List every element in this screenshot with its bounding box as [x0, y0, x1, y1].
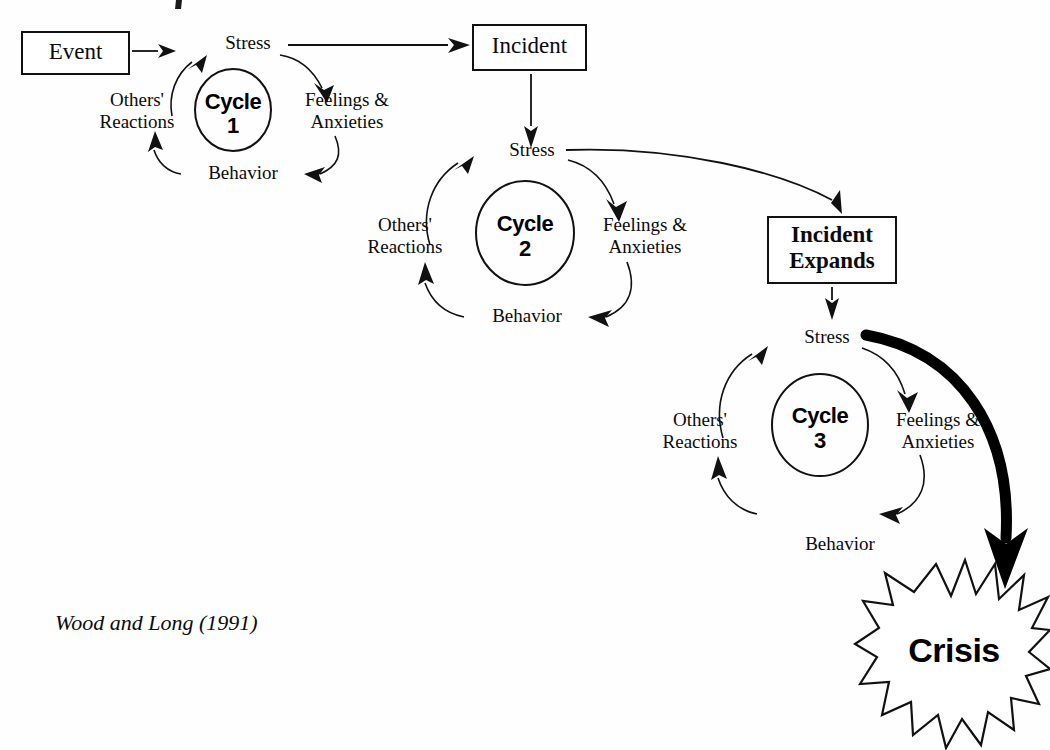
behavior1-to-others1-arc	[154, 150, 181, 174]
cycle-3-others-line1: Others'	[673, 409, 727, 430]
connector-stress2-to-feelings2	[568, 160, 627, 222]
stress2-to-expands-shaft	[566, 150, 832, 200]
stress2-to-feelings2-arc	[568, 160, 614, 204]
cycle-1-feelings-line2: Anxieties	[311, 111, 384, 132]
behavior2-to-others2-arc	[425, 283, 464, 317]
diagram-canvas: Event	[0, 0, 1050, 750]
feelings3-to-behavior3-head	[879, 507, 903, 524]
cycle-2-others-line2: Reactions	[368, 236, 443, 257]
connector-feelings1-to-behavior1	[304, 136, 339, 183]
stress1-to-feelings1-arc	[280, 55, 322, 88]
cycle-3-center-number: 3	[814, 428, 826, 453]
cycle-1-group: Event	[22, 32, 389, 183]
connector-stress3-to-crisis	[866, 335, 1028, 589]
cycle-2-center-number: 2	[519, 236, 531, 261]
stress3-to-feelings3-arc	[862, 348, 905, 394]
cropped-title-fragment	[175, 0, 182, 9]
connector-feelings2-to-behavior2	[588, 262, 631, 327]
connector-others2-to-stress2	[426, 156, 474, 245]
incident-box-label: Incident	[492, 33, 568, 58]
stress2-to-expands-head	[824, 190, 842, 214]
cycle-2-group: Cycle 2 Stress Feelings & Anxieties Beha…	[368, 139, 688, 327]
cycle-2-behavior-label: Behavior	[492, 305, 562, 326]
cycle-1-feelings-line1: Feelings &	[305, 89, 389, 110]
connector-behavior1-to-others1	[148, 131, 181, 174]
stress-cycle-diagram: Event	[0, 0, 1050, 750]
connector-incident-to-stress2	[524, 74, 538, 148]
crisis-outcome[interactable]: Crisis	[855, 560, 1050, 748]
cycle-2-feelings-line2: Anxieties	[609, 236, 682, 257]
stress1-to-incident-head	[448, 38, 470, 53]
cycle-3-stress-label: Stress	[804, 326, 849, 347]
cycle-3-feelings-line1: Feelings &	[896, 409, 980, 430]
others1-arrow-head	[188, 55, 207, 73]
cycle-1-center-number: 1	[227, 113, 239, 138]
connector-stress3-to-feelings3	[862, 348, 918, 413]
feelings3-to-behavior3-arc	[897, 455, 924, 514]
incident-expands-label-line1: Incident	[791, 222, 873, 247]
cycle-2-feelings-line1: Feelings &	[603, 214, 687, 235]
others1-arc	[171, 62, 192, 116]
cycle-1-center-label: Cycle	[205, 89, 262, 114]
cycle-3-center-label: Cycle	[792, 403, 849, 428]
cycle-2-others-line1: Others'	[378, 214, 432, 235]
feelings2-to-behavior2-arc	[606, 262, 631, 317]
incident-expands-label-line2: Expands	[789, 248, 875, 273]
behavior1-to-others1-head	[148, 131, 163, 152]
behavior2-to-others2-head	[418, 262, 434, 285]
expands-to-stress3-head	[825, 298, 839, 320]
incident-expands-box[interactable]: Incident Expands	[768, 217, 896, 283]
incident-box[interactable]: Incident	[473, 25, 586, 70]
event-box-label: Event	[49, 39, 103, 64]
connector-expands-to-stress3	[825, 287, 839, 320]
connector-behavior2-to-others2	[418, 262, 464, 317]
connector-behavior3-to-others3	[711, 456, 757, 514]
cycle-2-stress-label: Stress	[509, 139, 554, 160]
connector-feelings3-to-behavior3	[879, 455, 924, 524]
behavior3-to-others3-arc	[718, 478, 757, 514]
connector-stress2-to-incident-expands	[566, 150, 842, 214]
crisis-label: Crisis	[908, 631, 1000, 669]
behavior3-to-others3-head	[711, 456, 727, 480]
cycle-1-others-line2: Reactions	[100, 111, 175, 132]
cycle-1-others-line1: Others'	[110, 89, 164, 110]
citation-text: Wood and Long (1991)	[55, 610, 258, 635]
cycle-1-stress-label: Stress	[225, 32, 270, 53]
event-arrow-head	[158, 44, 176, 58]
cycle-2-center-label: Cycle	[497, 211, 554, 236]
cycle-3-behavior-label: Behavior	[805, 533, 875, 554]
event-box[interactable]: Event	[22, 32, 129, 74]
feelings1-to-behavior1-head	[304, 167, 325, 183]
cycle-3-feelings-line2: Anxieties	[902, 431, 975, 452]
cycle-1-behavior-label: Behavior	[208, 162, 278, 183]
others2-arrow-head	[454, 156, 474, 174]
feelings2-to-behavior2-head	[588, 310, 612, 327]
cycle-3-others-line2: Reactions	[663, 431, 738, 452]
connector-event-to-stress1	[132, 44, 176, 58]
connector-stress1-to-incident	[288, 38, 470, 53]
